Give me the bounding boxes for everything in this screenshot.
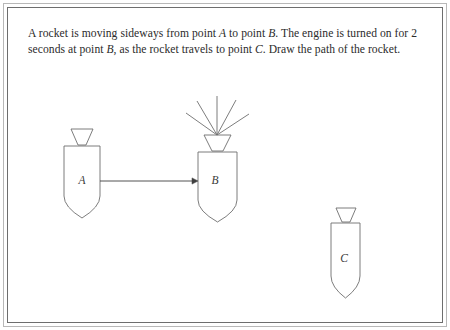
point-ref-c: C (255, 43, 263, 56)
prompt-segment-4: , as the rocket travels to point (114, 43, 255, 56)
problem-figure-page: A rocket is moving sideways from point A… (0, 0, 450, 330)
problem-statement: A rocket is moving sideways from point A… (28, 26, 424, 59)
point-ref-b-2: B (106, 43, 113, 56)
prompt-segment-2: to point (226, 27, 268, 40)
prompt-segment-1: A rocket is moving sideways from point (28, 27, 219, 40)
prompt-segment-5: . Draw the path of the rocket. (263, 43, 400, 56)
